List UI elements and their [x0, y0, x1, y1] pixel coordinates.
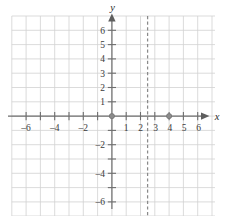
graph-canvas: –6 –4 –2 1 2 3 4 5 6 1 2 3 4 5 6 –2 –4 –… — [0, 0, 230, 216]
x-tick-label-2: 2 — [138, 123, 143, 133]
origin-point — [109, 114, 114, 119]
y-tick-label-5: 5 — [100, 40, 105, 50]
x-tick-label-5: 5 — [182, 123, 187, 133]
y-tick-label-neg4: –4 — [95, 169, 106, 179]
y-tick-label-6: 6 — [100, 26, 105, 36]
x-tick-label-6: 6 — [196, 123, 201, 133]
x-tick-label-neg2: –2 — [78, 123, 89, 133]
y-axis-arrowhead — [108, 14, 115, 22]
y-tick-label-1: 1 — [100, 97, 105, 107]
y-tick-label-3: 3 — [100, 69, 105, 79]
x-tick-label-1: 1 — [124, 123, 129, 133]
y-tick-label-neg2: –2 — [95, 140, 106, 150]
x-tick-label-3: 3 — [153, 123, 158, 133]
x-axis-arrowhead — [201, 112, 210, 119]
x-tick-label-neg4: –4 — [49, 123, 60, 133]
x-tick-label-neg6: –6 — [20, 123, 31, 133]
y-tick-label-neg6: –6 — [95, 197, 106, 207]
y-tick-label-4: 4 — [100, 54, 105, 64]
y-tick-label-2: 2 — [100, 83, 105, 93]
y-axis-label: y — [109, 2, 115, 13]
coordinate-plane-figure: –6 –4 –2 1 2 3 4 5 6 1 2 3 4 5 6 –2 –4 –… — [0, 0, 230, 216]
x-axis-label: x — [214, 111, 220, 122]
point-on-x-axis — [167, 114, 172, 119]
x-tick-label-4: 4 — [168, 123, 173, 133]
